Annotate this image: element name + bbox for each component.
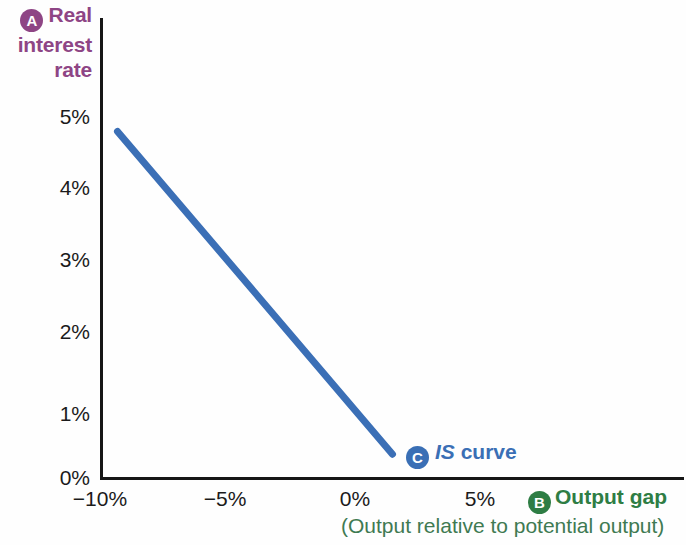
is-curve-line — [118, 131, 393, 454]
chart-canvas: AReal interest rate 5% 4% 3% 2% 1% 0% −1… — [0, 0, 686, 545]
badge-c-icon: C — [406, 446, 429, 469]
is-curve-label: CIS curve — [406, 440, 517, 469]
is-curve-plot — [0, 0, 686, 545]
is-curve-label-rest: curve — [461, 440, 517, 463]
is-curve-label-italic: IS — [435, 440, 455, 463]
